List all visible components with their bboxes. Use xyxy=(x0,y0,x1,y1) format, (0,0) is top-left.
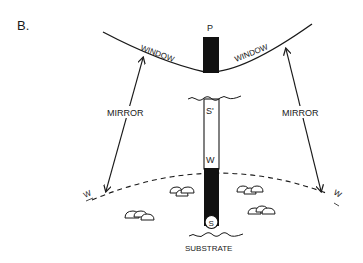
probe-block xyxy=(203,37,219,73)
window-label-left: WINDOW xyxy=(139,43,175,64)
panel-label: B. xyxy=(17,18,29,33)
probe-label: P xyxy=(207,23,213,33)
pebbles-left-upper xyxy=(170,187,194,196)
mirror-label-left: MIRROR xyxy=(107,108,144,118)
s-bottom-label: S xyxy=(209,219,214,228)
s-prime-label: S' xyxy=(206,106,214,116)
mirror-label-right: MIRROR xyxy=(282,108,319,118)
substrate-label: SUBSTRATE xyxy=(185,244,232,253)
pebbles-right-lower xyxy=(248,206,275,214)
mirror-arrow-right xyxy=(286,49,321,191)
w-label-right: W xyxy=(332,188,343,200)
pebbles-right-upper xyxy=(237,186,263,194)
diagram: B. P WINDOW WINDOW MIRROR MIRROR W W S' … xyxy=(0,0,363,263)
pebbles-left-lower xyxy=(125,211,154,220)
w-column-label: W xyxy=(206,155,215,165)
substrate-wavy xyxy=(189,233,243,237)
mirror-arrow-left xyxy=(106,58,143,191)
w-label-left: W xyxy=(82,188,93,200)
